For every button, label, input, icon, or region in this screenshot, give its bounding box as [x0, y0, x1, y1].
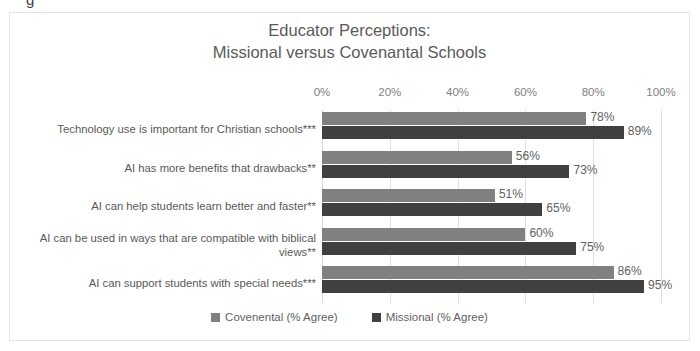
chart-title: Educator Perceptions: Missional versus C…: [10, 19, 689, 63]
legend-swatch-icon: [372, 313, 381, 322]
bar-covenental: [322, 266, 614, 279]
plot-area: 78%89%56%73%51%65%60%75%86%95%: [322, 110, 661, 303]
x-axis-tick-label: 100%: [646, 86, 675, 98]
bar-value-label: 89%: [628, 125, 652, 138]
clipped-text-above: g: [26, 0, 34, 8]
legend-swatch-icon: [211, 313, 220, 322]
chart-container: Educator Perceptions: Missional versus C…: [9, 12, 690, 341]
bar-value-label: 65%: [546, 202, 570, 215]
bar-value-label: 95%: [648, 279, 672, 292]
bar-missional: [322, 203, 542, 216]
bar-covenental: [322, 189, 495, 202]
category-label: AI can support students with special nee…: [24, 264, 316, 303]
bar-value-label: 60%: [529, 227, 553, 240]
chart-title-line-1: Educator Perceptions:: [10, 19, 689, 41]
bar-value-label: 75%: [580, 241, 604, 254]
legend-item[interactable]: Missional (% Agree): [372, 311, 488, 323]
x-axis-tick-label: 40%: [446, 86, 469, 98]
bar-value-label: 51%: [499, 188, 523, 201]
bar-value-label: 86%: [618, 265, 642, 278]
legend-label: Covenental (% Agree): [225, 311, 338, 323]
category-label: AI has more benefits that drawbacks**: [24, 149, 316, 188]
category-label: Technology use is important for Christia…: [24, 110, 316, 149]
bar-missional: [322, 242, 576, 255]
bar-missional: [322, 126, 624, 139]
category-label: AI can be used in ways that are compatib…: [24, 226, 316, 265]
bar-covenental: [322, 228, 525, 241]
chart-title-line-2: Missional versus Covenantal Schools: [10, 41, 689, 63]
y-axis-category-labels: Technology use is important for Christia…: [24, 110, 316, 303]
bar-covenental: [322, 151, 512, 164]
gridline: [661, 110, 662, 303]
category-label: AI can help students learn better and fa…: [24, 187, 316, 226]
bar-covenental: [322, 112, 586, 125]
x-axis-tick-labels: 0%20%40%60%80%100%: [322, 86, 661, 102]
x-axis-tick-label: 20%: [378, 86, 401, 98]
chart-legend: Covenental (% Agree)Missional (% Agree): [10, 311, 689, 323]
bar-value-label: 78%: [590, 111, 614, 124]
bar-group: 86%95%: [322, 264, 661, 303]
bar-value-label: 56%: [516, 150, 540, 163]
x-axis-tick-label: 80%: [582, 86, 605, 98]
bar-value-label: 73%: [573, 164, 597, 177]
bar-group: 51%65%: [322, 187, 661, 226]
legend-label: Missional (% Agree): [386, 311, 488, 323]
bar-group: 56%73%: [322, 149, 661, 188]
bar-missional: [322, 280, 644, 293]
legend-item[interactable]: Covenental (% Agree): [211, 311, 338, 323]
bar-missional: [322, 165, 569, 178]
bar-group: 78%89%: [322, 110, 661, 149]
bar-group: 60%75%: [322, 226, 661, 265]
x-axis-tick-label: 0%: [314, 86, 331, 98]
x-axis-tick-label: 60%: [514, 86, 537, 98]
bar-rows: 78%89%56%73%51%65%60%75%86%95%: [322, 110, 661, 303]
